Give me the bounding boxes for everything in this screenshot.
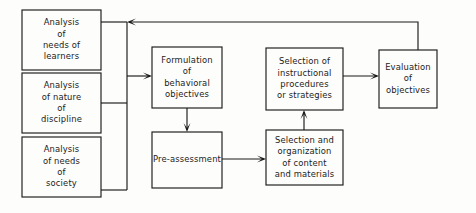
box-layer xyxy=(22,10,437,197)
box-formulation-of-behavioral-objectives xyxy=(152,47,222,108)
flowchart-diagram: Analysisofneeds oflearnersAnalysisof nat… xyxy=(0,0,476,213)
box-selection-of-instructional-procedures-or-strategies xyxy=(266,48,343,110)
box-pre-assessment xyxy=(152,132,222,188)
box-analysis-of-needs-of-learners xyxy=(22,10,101,70)
box-analysis-of-needs-of-society xyxy=(22,137,101,197)
flowchart-canvas xyxy=(0,0,476,213)
box-evaluation-of-objectives xyxy=(379,50,437,108)
connector-evaluation-feedback-loop xyxy=(129,22,418,50)
connector-layer xyxy=(101,19,418,190)
box-selection-and-organization-of-content-and-materials xyxy=(266,130,343,185)
box-analysis-of-nature-of-discipline xyxy=(22,73,101,133)
